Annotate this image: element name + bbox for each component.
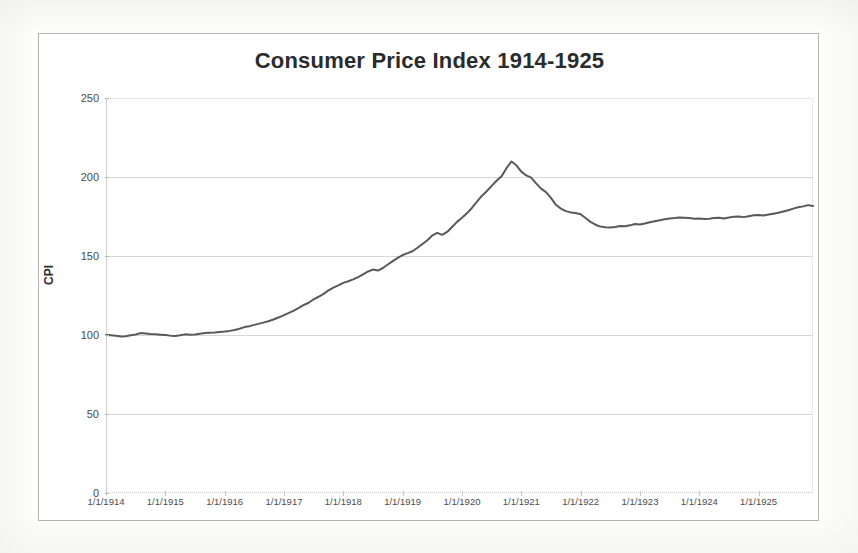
- x-axis-tickmark: [225, 491, 226, 496]
- x-axis-tickmark: [284, 491, 285, 496]
- x-axis-tickmark: [640, 491, 641, 496]
- y-axis-tickmark: [105, 335, 109, 336]
- y-tick-label: 50: [55, 408, 99, 420]
- scanned-page: Consumer Price Index 1914-1925 CPI 05010…: [0, 0, 858, 553]
- x-axis-tickmark: [699, 491, 700, 496]
- x-axis-tick-labels: 1/1/19141/1/19151/1/19161/1/19171/1/1918…: [106, 496, 813, 516]
- x-axis-tickmark: [165, 491, 166, 496]
- x-axis-tickmark: [462, 491, 463, 496]
- chart-title: Consumer Price Index 1914-1925: [39, 48, 820, 74]
- y-tick-label: 250: [55, 92, 99, 104]
- x-axis-tickmark: [581, 491, 582, 496]
- x-tick-label: 1/1/1925: [724, 496, 794, 507]
- plot-area: [106, 98, 813, 493]
- x-axis-tickmark: [521, 491, 522, 496]
- y-axis-tickmark: [105, 98, 109, 99]
- chart-frame: Consumer Price Index 1914-1925 CPI 05010…: [38, 33, 819, 521]
- series-line-chart: [106, 98, 813, 493]
- y-axis-tickmark: [105, 177, 109, 178]
- x-axis-tickmark: [759, 491, 760, 496]
- y-axis-tickmark: [105, 256, 109, 257]
- y-axis-tickmark: [105, 493, 109, 494]
- series-cpi-line: [106, 162, 813, 337]
- y-tick-label: 150: [55, 250, 99, 262]
- x-axis-tickmark: [403, 491, 404, 496]
- y-axis-tick-labels: 050100150200250: [51, 98, 99, 493]
- y-tick-label: 200: [55, 171, 99, 183]
- y-axis-tickmark: [105, 414, 109, 415]
- x-axis-tickmark: [343, 491, 344, 496]
- y-tick-label: 100: [55, 329, 99, 341]
